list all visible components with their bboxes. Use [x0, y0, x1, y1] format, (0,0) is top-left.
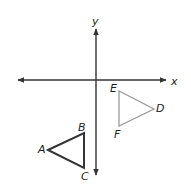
triangle-def: [119, 91, 154, 126]
coordinate-plane: x y E D F A B C: [0, 0, 191, 192]
vertex-label-e: E: [110, 82, 117, 95]
vertex-label-c: C: [81, 170, 89, 183]
x-axis-label: x: [170, 75, 178, 88]
triangle-abc: [48, 133, 84, 168]
vertex-label-f: F: [114, 128, 121, 141]
vertex-label-b: B: [78, 121, 86, 134]
y-axis-label: y: [91, 15, 99, 28]
vertex-label-d: D: [156, 102, 164, 115]
vertex-label-a: A: [37, 143, 46, 156]
